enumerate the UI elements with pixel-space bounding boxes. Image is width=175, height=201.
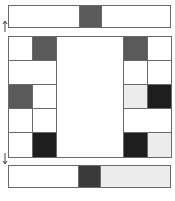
tile-white <box>124 61 147 84</box>
tile-white <box>147 37 171 60</box>
top-bar <box>8 5 171 28</box>
tile-white <box>9 37 32 60</box>
tile-light <box>124 85 147 108</box>
tile-black <box>32 133 56 157</box>
top-bar-segment-white <box>102 6 170 27</box>
right-column-row <box>124 37 171 61</box>
right-column-row <box>124 109 171 133</box>
tile-white <box>124 109 171 132</box>
tile-white <box>9 61 56 84</box>
right-column <box>123 37 171 157</box>
top-bar-segment-white <box>9 6 79 27</box>
left-column-row <box>9 133 56 157</box>
right-column-row <box>124 85 171 109</box>
tile-gray <box>32 37 56 60</box>
left-column-row <box>9 85 56 109</box>
tile-black <box>124 133 147 157</box>
left-column-row <box>9 37 56 61</box>
tile-gray <box>9 85 32 108</box>
bottom-bar-segment-dark <box>78 166 101 187</box>
bottom-bar-segment-light <box>101 166 170 187</box>
right-column-row <box>124 61 171 85</box>
left-column <box>9 37 57 157</box>
tile-black <box>147 85 171 108</box>
arrow-down-icon <box>2 153 8 165</box>
left-column-row <box>9 109 56 133</box>
tile-gray <box>124 37 147 60</box>
arrow-up-icon <box>2 20 8 32</box>
tile-white <box>32 85 56 108</box>
tile-white <box>9 133 32 157</box>
tile-grid <box>8 36 172 158</box>
tile-light <box>147 133 171 157</box>
tile-white <box>32 109 56 132</box>
bottom-bar-segment-white <box>9 166 78 187</box>
right-column-row <box>124 133 171 157</box>
tile-white <box>9 109 32 132</box>
bottom-bar <box>8 165 171 188</box>
left-column-row <box>9 61 56 85</box>
tile-white <box>147 61 171 84</box>
top-bar-segment-gray <box>79 6 102 27</box>
